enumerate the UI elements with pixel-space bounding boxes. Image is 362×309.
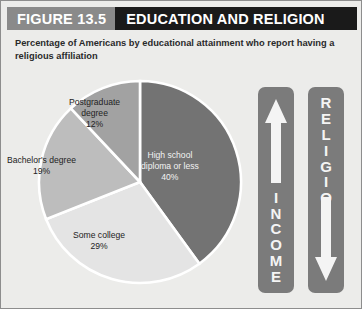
pie-value-bachelors: 19%	[33, 166, 50, 176]
vertical-letter: E	[308, 111, 344, 127]
figure-header: FIGURE 13.5 EDUCATION AND RELIGION	[7, 7, 357, 30]
pie-label-some-college: Some college 29%	[73, 230, 125, 252]
pie-value-postgraduate: 12%	[86, 119, 103, 129]
vertical-letter: R	[308, 95, 344, 111]
vertical-letter: G	[308, 159, 344, 175]
vertical-letter: E	[258, 269, 294, 285]
pie-value-some-college: 29%	[90, 241, 107, 251]
pie-value-high-school: 40%	[161, 172, 178, 182]
pie-label-high-school: High school diploma or less 40%	[141, 150, 199, 184]
figure-subtitle: Percentage of Americans by educational a…	[15, 37, 347, 63]
arrow-down-icon	[314, 195, 338, 283]
pie-label-line1: High school	[147, 150, 192, 160]
vertical-letter: I	[308, 143, 344, 159]
vertical-letter: L	[308, 127, 344, 143]
income-label: INCOME	[258, 190, 294, 285]
vertical-letter: I	[258, 190, 294, 206]
figure-container: FIGURE 13.5 EDUCATION AND RELIGION Perce…	[0, 0, 362, 309]
pie-label-line1: Bachelor's degree	[7, 155, 76, 165]
vertical-letter: N	[258, 206, 294, 222]
pie-label-bachelors: Bachelor's degree 19%	[7, 155, 76, 177]
pie-label-line2: degree	[81, 108, 108, 118]
pie-label-line2: diploma or less	[141, 161, 199, 171]
pie-label-postgraduate: Postgraduate degree 12%	[69, 97, 120, 131]
pie-chart: Postgraduate degree 12% Bachelor's degre…	[23, 77, 249, 291]
vertical-letter: C	[258, 221, 294, 237]
vertical-letter: O	[258, 237, 294, 253]
vertical-letter: M	[258, 253, 294, 269]
arrow-up-icon	[264, 97, 288, 185]
income-arrow-bar: INCOME	[258, 87, 294, 293]
figure-number: FIGURE 13.5	[7, 7, 115, 30]
pie-label-line1: Some college	[73, 230, 125, 240]
pie-label-line1: Postgraduate	[69, 97, 120, 107]
vertical-letter: I	[308, 174, 344, 190]
pie-svg	[37, 79, 243, 285]
religion-arrow-bar: RELIGION	[308, 87, 344, 293]
figure-title: EDUCATION AND RELIGION	[115, 7, 357, 30]
